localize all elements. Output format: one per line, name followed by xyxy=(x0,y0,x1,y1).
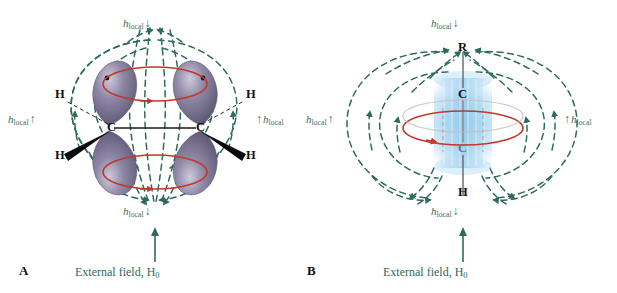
local-field-arrow: ↓ xyxy=(452,204,460,218)
atom-label-h-upper-left: H xyxy=(55,88,65,101)
local-field-arrow: ↓ xyxy=(452,16,460,30)
atom-label-h-upper-right: H xyxy=(246,88,256,101)
caption-subscript: 0 xyxy=(155,270,159,280)
local-field-subscript: local xyxy=(437,22,452,31)
local-field-label-top-b: hlocal↓ xyxy=(431,17,460,30)
local-field-label-bottom-b: hlocal↓ xyxy=(431,205,460,218)
local-field-subscript: local xyxy=(437,210,452,219)
atom-label-r: R xyxy=(458,41,467,54)
local-field-subscript: local xyxy=(577,118,592,127)
panel-a-graphics xyxy=(0,0,308,293)
caption-text: External field, H xyxy=(383,265,463,279)
caption-a: External field, H0 xyxy=(75,266,160,280)
panel-b: R C C H hlocal↓ hlocal↑ ↑hlocal hlocal↓ … xyxy=(308,0,617,293)
local-field-subscript: local xyxy=(312,118,327,127)
local-field-label-bottom-a: hlocal↓ xyxy=(123,205,152,218)
local-field-subscript: local xyxy=(14,118,29,127)
local-field-arrow: ↑ xyxy=(255,112,263,126)
atom-label-h-lower-right: H xyxy=(246,149,256,162)
atom-label-h-bottom: H xyxy=(458,186,468,199)
local-field-label-right-a: ↑hlocal xyxy=(255,113,284,126)
local-field-subscript: local xyxy=(129,22,144,31)
atom-label-h-lower-left: H xyxy=(55,149,65,162)
local-field-subscript: local xyxy=(129,210,144,219)
panel-a: C C H H H H hlocal↓ hlocal↑ ↑hlocal hloc… xyxy=(0,0,308,293)
caption-b: External field, H0 xyxy=(383,266,468,280)
local-field-arrow: ↓ xyxy=(144,16,152,30)
atom-label-c-right: C xyxy=(196,121,205,134)
atom-label-c-lower: C xyxy=(458,142,467,155)
panel-letter-a: A xyxy=(19,264,28,277)
atom-label-c-left: C xyxy=(107,121,116,134)
panel-letter-b: B xyxy=(307,264,316,277)
external-field-arrow-b xyxy=(459,227,467,262)
external-field-arrow-a xyxy=(151,227,159,262)
local-field-arrow: ↓ xyxy=(144,204,152,218)
local-field-label-left-a: hlocal↑ xyxy=(8,113,37,126)
local-field-label-top-a: hlocal↓ xyxy=(123,17,152,30)
local-field-arrow: ↑ xyxy=(327,112,335,126)
local-field-subscript: local xyxy=(269,118,284,127)
local-field-arrow: ↑ xyxy=(29,112,37,126)
local-field-label-right-b: ↑hlocal xyxy=(563,113,592,126)
local-field-arrow: ↑ xyxy=(563,112,571,126)
caption-text: External field, H xyxy=(75,265,155,279)
atom-label-c-upper: C xyxy=(458,88,467,101)
local-field-label-left-b: hlocal↑ xyxy=(306,113,335,126)
caption-subscript: 0 xyxy=(463,270,467,280)
